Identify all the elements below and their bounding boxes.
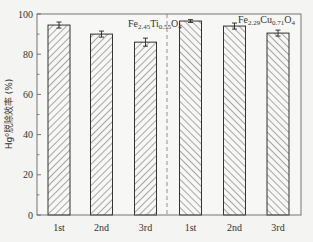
bar-fe-cu-1st [180, 21, 202, 215]
y-tick-label: 100 [18, 9, 33, 20]
plot-area [37, 14, 301, 215]
x-category-label: 1st [53, 222, 65, 233]
x-category-label: 2nd [94, 222, 109, 233]
bar-fe-ti-3rd [135, 42, 157, 215]
bar-chart: 020406080100 1st2nd3rd1st2nd3rd Fe2.45Ti… [0, 0, 313, 242]
y-tick-label: 40 [23, 129, 33, 140]
bar-fe-ti-1st [48, 25, 70, 215]
x-axis: 1st2nd3rd1st2nd3rd [53, 222, 285, 233]
x-category-label: 2nd [227, 222, 242, 233]
y-tick-label: 20 [23, 169, 33, 180]
x-category-label: 3rd [139, 222, 152, 233]
y-tick-label: 0 [28, 210, 33, 221]
x-category-label: 1st [185, 222, 197, 233]
x-category-label: 3rd [271, 222, 284, 233]
y-axis-label: Hg⁰脱除效率 (%) [3, 79, 14, 150]
bar-fe-ti-2nd [91, 34, 113, 215]
bar-fe-cu-2nd [224, 26, 246, 215]
bar-fe-cu-3rd [267, 33, 289, 215]
y-tick-label: 60 [23, 89, 33, 100]
y-tick-label: 80 [23, 49, 33, 60]
